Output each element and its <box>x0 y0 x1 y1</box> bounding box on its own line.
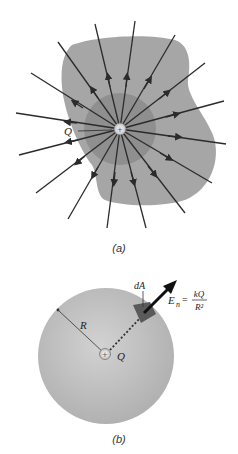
panel-a: Q + (a) <box>16 21 226 254</box>
panel-b: R dA E n = kQ R² + Q (b) <box>38 280 207 445</box>
gauss-law-figure: Q + (a) R dA E n = kQ R² + Q (b) <box>0 0 238 454</box>
charge-label-b: Q <box>117 350 125 362</box>
caption-b: (b) <box>112 433 126 445</box>
equals-sign: = <box>182 294 188 305</box>
field-denominator: R² <box>194 302 203 312</box>
field-numerator: kQ <box>194 289 205 299</box>
charge-sign-b: + <box>102 350 107 360</box>
charge-label-a: Q <box>64 125 72 137</box>
area-label: dA <box>134 280 146 291</box>
field-subscript: n <box>176 300 180 309</box>
radius-label: R <box>79 319 87 331</box>
caption-a: (a) <box>112 242 126 254</box>
field-symbol: E <box>167 294 175 306</box>
charge-sign-a: + <box>117 125 122 135</box>
radius-endpoint <box>57 309 60 312</box>
field-vector-shaft <box>144 287 170 313</box>
